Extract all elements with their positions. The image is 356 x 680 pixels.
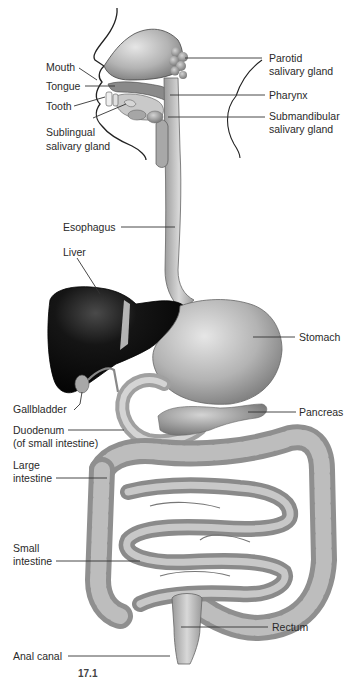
label-liver: Liver xyxy=(63,246,86,259)
label-small-intestine-line2: intestine xyxy=(13,555,52,568)
label-tooth: Tooth xyxy=(46,100,72,113)
label-tongue: Tongue xyxy=(46,80,80,93)
label-gallbladder: Gallbladder xyxy=(13,403,67,416)
label-submandibular-line2: salivary gland xyxy=(269,123,333,136)
label-rectum: Rectum xyxy=(272,621,308,634)
label-parotid-line2: salivary gland xyxy=(269,65,333,78)
label-esophagus: Esophagus xyxy=(63,221,116,234)
pancreas xyxy=(158,404,267,435)
label-duodenum-line1: Duodenum xyxy=(13,424,64,437)
label-small-intestine-line1: Small xyxy=(13,542,39,555)
submandibular-gland xyxy=(147,111,163,123)
small-intestine xyxy=(127,485,290,604)
label-parotid-line1: Parotid xyxy=(269,52,302,65)
label-mouth: Mouth xyxy=(46,61,75,74)
label-stomach: Stomach xyxy=(299,331,340,344)
figure-number: 17.1 xyxy=(78,668,97,679)
parotid-gland xyxy=(169,47,188,79)
label-sublingual-line2: salivary gland xyxy=(46,140,110,153)
label-sublingual-line1: Sublingual xyxy=(46,126,95,139)
label-large-intestine-line2: intestine xyxy=(13,472,52,485)
label-submandibular-line1: Submandibular xyxy=(269,110,340,123)
label-anal-canal: Anal canal xyxy=(13,650,62,663)
label-large-intestine-line1: Large xyxy=(13,459,40,472)
label-duodenum-line2: (of small intestine) xyxy=(13,437,98,450)
label-pharynx: Pharynx xyxy=(269,89,308,102)
rectum-and-anal-canal xyxy=(172,594,202,665)
label-pancreas: Pancreas xyxy=(299,406,343,419)
